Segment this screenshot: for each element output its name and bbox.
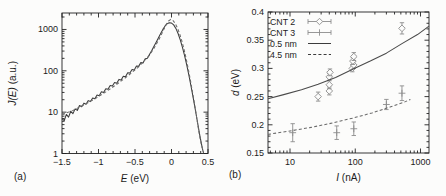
panel-a: −1.5−1−0.500.51101001000E (eV)J(E) (a.u.… bbox=[0, 0, 223, 196]
figure-canvas: −1.5−1−0.500.51101001000E (eV)J(E) (a.u.… bbox=[0, 0, 446, 196]
legend-label: CNT 2 bbox=[270, 17, 295, 27]
y-tick-label: 0.15 bbox=[246, 148, 264, 158]
x-tick-label: 0.5 bbox=[202, 157, 215, 167]
x-axis-title: E (eV) bbox=[121, 173, 149, 184]
x-tick-label: −0.5 bbox=[126, 157, 144, 167]
diamond-marker bbox=[315, 93, 322, 100]
x-tick-label: −1 bbox=[93, 157, 103, 167]
legend-label: CNT 3 bbox=[270, 28, 295, 38]
y-tick-label: 0.3 bbox=[251, 63, 264, 73]
series-cnt-2 bbox=[315, 23, 405, 101]
x-tick-label: 10 bbox=[285, 157, 295, 167]
plot-frame bbox=[62, 13, 208, 154]
y-axis-title: d (eV) bbox=[230, 69, 241, 96]
axes-a bbox=[62, 13, 208, 154]
y-tick-label: 1000 bbox=[38, 24, 58, 34]
panel-b: 1010010000.150.20.250.30.350.4I (nA)d (e… bbox=[223, 0, 446, 196]
solid-curve bbox=[62, 23, 204, 154]
y-tick-label: 0.25 bbox=[246, 92, 264, 102]
series-fit-spectrum bbox=[62, 19, 204, 152]
dashed-curve bbox=[62, 19, 204, 152]
legend-diamond-marker bbox=[316, 18, 322, 24]
plot-a-chart: −1.5−1−0.500.51101001000E (eV)J(E) (a.u.… bbox=[0, 0, 223, 196]
y-tick-label: 10 bbox=[48, 107, 58, 117]
legend-label: 4.5 nm bbox=[270, 50, 297, 60]
series-cnt-3 bbox=[289, 86, 405, 142]
x-tick-label: 100 bbox=[348, 157, 363, 167]
x-tick-label: 0 bbox=[169, 157, 174, 167]
y-tick-label: 1 bbox=[53, 149, 58, 159]
x-axis-title: I (nA) bbox=[336, 172, 360, 183]
y-tick-label: 0.2 bbox=[251, 120, 264, 130]
series-measured-spectrum bbox=[62, 23, 204, 154]
legend-label: 0.5 nm bbox=[270, 39, 297, 49]
diamond-marker bbox=[399, 25, 406, 32]
x-tick-label: 1000 bbox=[410, 157, 430, 167]
y-axis-title: J(E) (a.u.) bbox=[7, 61, 18, 106]
diamond-marker bbox=[326, 81, 333, 88]
panel-a-label: (a) bbox=[14, 171, 26, 182]
plot-b-chart: 1010010000.150.20.250.30.350.4I (nA)d (e… bbox=[223, 0, 446, 196]
y-tick-label: 100 bbox=[43, 66, 58, 76]
y-tick-label: 0.4 bbox=[251, 7, 264, 17]
x-tick-label: −1.5 bbox=[53, 157, 71, 167]
legend: CNT 2CNT 30.5 nm4.5 nm bbox=[270, 17, 331, 60]
y-tick-label: 0.35 bbox=[246, 35, 264, 45]
panel-b-label: (b) bbox=[229, 169, 241, 180]
